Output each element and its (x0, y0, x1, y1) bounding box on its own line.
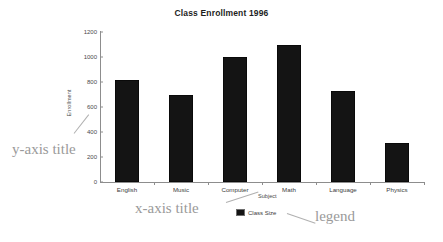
x-axis-category-label: Language (329, 186, 357, 193)
y-tick-mark (100, 82, 103, 83)
x-tick-mark (316, 182, 317, 185)
chart-legend: Class Size (236, 209, 276, 216)
x-axis-category-label: Math (282, 186, 296, 193)
x-axis-category-label: Physics (386, 186, 407, 193)
y-tick-label: 1000 (84, 54, 100, 60)
annotation-x-axis-title: x-axis title (135, 200, 199, 217)
y-tick-label: 800 (87, 79, 100, 85)
y-tick-label: 0 (94, 179, 100, 185)
y-axis-title-label: Enrollment (66, 90, 72, 117)
x-tick-mark (154, 182, 155, 185)
bar (385, 143, 410, 182)
bar (223, 57, 248, 182)
x-tick-mark (208, 182, 209, 185)
x-tick-mark (262, 182, 263, 185)
x-axis-category-label: Computer (221, 186, 248, 193)
legend-label-class-size: Class Size (248, 210, 276, 216)
y-tick-label: 1200 (84, 29, 100, 35)
bar (277, 45, 302, 183)
y-tick-mark (100, 107, 103, 108)
bar (115, 80, 140, 183)
x-axis-title-label: Subject (258, 193, 277, 199)
chart-title: Class Enrollment 1996 (0, 8, 443, 18)
bar (169, 95, 194, 183)
x-tick-mark (424, 182, 425, 185)
bar (331, 91, 356, 182)
x-axis-category-label: Music (173, 186, 189, 193)
x-tick-mark (370, 182, 371, 185)
leader-line-legend (287, 213, 316, 224)
annotation-y-axis-title: y-axis title (12, 141, 76, 158)
y-tick-mark (100, 157, 103, 158)
y-tick-mark (100, 57, 103, 58)
y-tick-mark (100, 132, 103, 133)
plot-area: 020040060080010001200 (100, 32, 424, 182)
y-tick-label: 400 (87, 129, 100, 135)
legend-swatch-class-size (236, 209, 245, 216)
y-tick-mark (100, 32, 103, 33)
y-tick-label: 200 (87, 154, 100, 160)
y-tick-label: 600 (87, 104, 100, 110)
leader-line-x-axis-title (226, 192, 259, 203)
y-tick-mark (100, 182, 103, 183)
x-axis-category-label: English (117, 186, 137, 193)
annotation-legend: legend (315, 208, 355, 225)
